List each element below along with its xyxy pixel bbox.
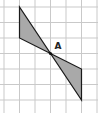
point-a-marker [49,52,52,55]
grid-diagram [0,0,98,113]
point-a-label: A [55,42,62,51]
grid [0,0,98,113]
